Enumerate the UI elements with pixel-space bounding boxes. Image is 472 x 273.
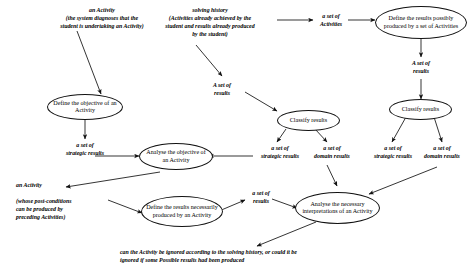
connector-layer (0, 0, 472, 273)
diagram-canvas: Define the objective of an Activity Defi… (0, 0, 472, 273)
edge-activity-to-define-objective (77, 31, 101, 94)
node-define-possible-results-label: Define the results possibly produced by … (380, 15, 462, 30)
label-a-set-of-strategic-results-left: a set of strategic results (53, 142, 117, 158)
node-classify-results-left-label: Classify results (290, 117, 327, 124)
edge-set-of-results-mid-to-classify-left (245, 92, 277, 111)
edge-domain-right-to-analyse-interpretations (369, 167, 437, 194)
label-a-set-of-results-right: A set of results (400, 60, 442, 76)
edge-classify-left-to-strategic (277, 129, 286, 142)
label-a-set-of-domain-results-right: a set of domain results (411, 145, 472, 161)
edge-history-to-set-of-results-mid (196, 45, 222, 76)
node-analyse-interpretations-label: Analyse the necessary interpretations of… (300, 201, 375, 216)
node-define-necessary-results-label: Define the results necessarily produced … (146, 204, 218, 219)
node-classify-results-right[interactable]: Classify results (389, 99, 452, 120)
edge-classify-left-to-domain (315, 129, 327, 142)
label-a-set-of-results-mid: A set of results (201, 82, 243, 98)
node-define-objective-label: Define the objective of an Activity (52, 100, 118, 115)
label-a-set-of-results-lower: a set of results (240, 190, 282, 206)
node-analyse-objective[interactable]: Analyse the objective of an Activity (139, 143, 213, 170)
label-solving-history: solving history (Activities already achi… (140, 7, 280, 39)
edge-classify-right-to-domain (434, 117, 442, 142)
edge-analyse-interpretations-to-question (257, 222, 316, 246)
edge-domain-mid-to-analyse-interpretations (327, 165, 337, 186)
label-a-set-of-activities: a set of Activities (311, 13, 351, 29)
label-a-set-of-domain-results-mid: a set of domain results (300, 145, 364, 161)
label-an-activity-post-conditions: an Activity (whose post-conditions can b… (16, 182, 128, 222)
node-define-possible-results[interactable]: Define the results possibly produced by … (375, 6, 467, 39)
node-define-objective[interactable]: Define the objective of an Activity (47, 94, 123, 120)
edge-classify-right-to-strategic (392, 117, 406, 142)
node-analyse-interpretations[interactable]: Analyse the necessary interpretations of… (295, 192, 380, 224)
node-define-necessary-results[interactable]: Define the results necessarily produced … (141, 196, 223, 227)
node-classify-results-right-label: Classify results (402, 106, 439, 113)
label-ignore-question: can the Activity be ignored according to… (120, 249, 400, 265)
node-classify-results-left[interactable]: Classify results (277, 110, 340, 131)
node-analyse-objective-label: Analyse the objective of an Activity (144, 149, 208, 164)
